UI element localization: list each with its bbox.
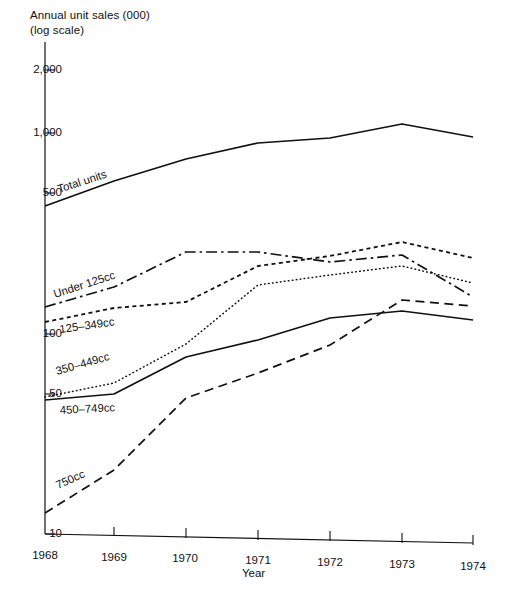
x-tick-label-1971: 1971 <box>228 554 288 566</box>
axes <box>45 42 473 545</box>
y-tick-label-10: 10 <box>2 527 62 539</box>
series-label-total-units: Total units <box>56 168 108 195</box>
x-axis-line <box>45 534 473 543</box>
y-axis-title-line2: (log scale) <box>30 24 84 36</box>
y-tick-label-50: 50 <box>2 387 62 399</box>
x-tick-label-1969: 1969 <box>84 551 144 563</box>
x-axis-title: Year <box>0 567 507 579</box>
y-tick-label-2000: 2,000 <box>2 63 62 75</box>
x-tick-label-1968: 1968 <box>15 549 75 561</box>
plot-area: Total units Under 125cc 125–349cc 350–44… <box>0 0 507 603</box>
y-tick-label-100: 100 <box>2 327 62 339</box>
chart-figure: Annual unit sales (000)(log scale) 2,000… <box>0 0 507 603</box>
series-label-750cc: 750cc <box>54 467 87 490</box>
series-line-350-449cc <box>45 266 473 397</box>
y-axis-title: Annual unit sales (000)(log scale) <box>30 8 150 37</box>
y-axis-title-line1: Annual unit sales (000) <box>30 9 150 21</box>
series-line-total-units <box>45 124 473 206</box>
y-tick-label-1000: 1,000 <box>2 126 62 138</box>
series-label-350-449cc: 350–449cc <box>54 350 111 377</box>
series-label-450-749cc: 450–749cc <box>59 401 115 416</box>
x-tick-label-1970: 1970 <box>155 552 215 564</box>
series-label-under-125cc: Under 125cc <box>52 269 117 300</box>
y-tick-label-500: 500 <box>2 186 62 198</box>
